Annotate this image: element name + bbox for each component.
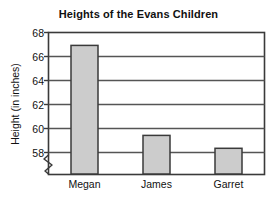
x-tick-label-james: James: [121, 178, 193, 190]
plot-area: [0, 0, 277, 202]
bar-megan: [71, 45, 98, 174]
bar-chart: Heights of the Evans Children Height (in…: [0, 0, 277, 202]
bar-garret: [215, 148, 242, 174]
x-tick-label-megan: Megan: [49, 178, 121, 190]
bar-james: [143, 135, 170, 174]
x-tick-label-garret: Garret: [193, 178, 265, 190]
